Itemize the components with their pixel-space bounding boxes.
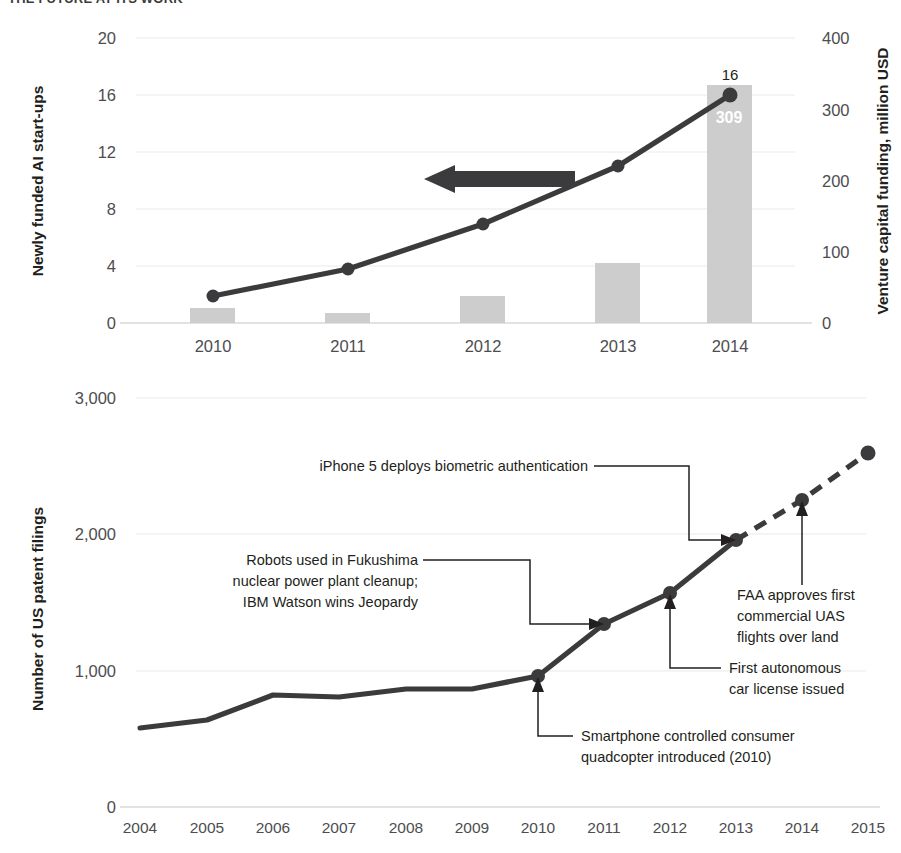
- y-tick-left-2: 8: [107, 200, 116, 218]
- annotation-autonomous-car-line-0: First autonomous: [729, 660, 841, 676]
- annotation-faa: FAA approves first commercial UAS flight…: [737, 587, 855, 645]
- line-marker-2011: [342, 263, 355, 276]
- top-chart-y-axis-right: 400 300 200 100 0 Venture capital fundin…: [822, 29, 891, 332]
- annotation-quadcopter-line-0: Smartphone controlled consumer: [581, 728, 795, 744]
- x-tick-2005: 2005: [190, 819, 224, 836]
- y-tick-left-1: 4: [107, 257, 116, 275]
- top-chart-y-axis-left: 20 16 12 8 4 0 Newly funded AI start-ups: [29, 29, 116, 332]
- left-arrow-icon: [424, 165, 575, 193]
- x-tick-2008: 2008: [389, 819, 423, 836]
- annotation-faa-line-1: commercial UAS: [737, 608, 845, 624]
- leader-quadcopter: [538, 692, 573, 736]
- x-tick-2011: 2011: [330, 337, 365, 355]
- line-marker-2015: [861, 446, 876, 461]
- line-label-2014: 16: [722, 66, 739, 83]
- chart-ai-startups-funding: 20 16 12 8 4 0 Newly funded AI start-ups…: [0, 0, 901, 400]
- y-tick-right-0: 0: [822, 314, 831, 332]
- annotation-iphone5: iPhone 5 deploys biometric authenticatio…: [320, 458, 588, 474]
- x-tick-2004: 2004: [123, 819, 158, 836]
- annotation-quadcopter: Smartphone controlled consumer quadcopte…: [581, 728, 795, 765]
- x-tick-2013: 2013: [719, 819, 753, 836]
- figure-page: THE FUTURE AT ITS WORK 20 16 12 8 4 0 Ne…: [0, 0, 901, 853]
- y-axis-label-left: Newly funded AI start-ups: [29, 86, 46, 277]
- y-axis-label-right: Venture capital funding, million USD: [874, 48, 891, 315]
- bottom-chart-x-axis: 2004 2005 2006 2007 2008 2009 2010 2011 …: [123, 819, 885, 836]
- y-tick-left-3: 12: [98, 143, 116, 161]
- y-tick-left-0: 0: [107, 314, 116, 332]
- y-tick-left-4: 16: [98, 86, 116, 104]
- annotation-fukushima-line-1: nuclear power plant cleanup;: [233, 573, 418, 589]
- y-tick-right-2: 200: [822, 172, 850, 190]
- x-tick-2014: 2014: [712, 337, 749, 355]
- annotation-autonomous-car: First autonomous car license issued: [729, 660, 844, 697]
- x-tick-2009: 2009: [455, 819, 489, 836]
- annotation-faa-line-0: FAA approves first: [737, 587, 855, 603]
- line-marker-2010: [207, 290, 220, 303]
- y-axis-label-bottom-chart: Number of US patent filings: [29, 507, 46, 711]
- y-tick-right-1: 100: [822, 243, 850, 261]
- top-chart-x-axis: 2010 2011 2012 2013 2014: [195, 337, 749, 355]
- x-tick-2012: 2012: [465, 337, 502, 355]
- x-tick-2010: 2010: [521, 819, 556, 836]
- annotation-fukushima: Robots used in Fukushima nuclear power p…: [233, 552, 419, 610]
- bar-2012: [460, 296, 505, 323]
- line-marker-2014: [723, 88, 738, 103]
- line-marker-2013: [612, 160, 625, 173]
- top-chart-bars: 309: [190, 85, 752, 323]
- line-patent-filings-solid: [140, 540, 736, 728]
- bar-2010: [190, 308, 235, 323]
- bar-label-2014: 309: [716, 109, 743, 126]
- bar-2013: [595, 263, 640, 323]
- y-tick-left-5: 20: [98, 29, 116, 47]
- bottom-chart-y-axis: 3,000 2,000 1,000 0 Number of US patent …: [29, 389, 116, 816]
- annotation-fukushima-line-0: Robots used in Fukushima: [246, 552, 419, 568]
- annotation-quadcopter-line-1: quadcopter introduced (2010): [581, 749, 771, 765]
- y-tick-2000: 2,000: [75, 525, 116, 543]
- x-tick-2012: 2012: [653, 819, 687, 836]
- annotation-fukushima-line-2: IBM Watson wins Jeopardy: [243, 594, 419, 610]
- x-tick-2013: 2013: [600, 337, 637, 355]
- y-tick-0: 0: [107, 798, 116, 816]
- leader-fukushima: [423, 560, 590, 624]
- leader-iphone5: [594, 466, 722, 540]
- annotation-autonomous-car-line-1: car license issued: [729, 681, 844, 697]
- x-tick-2014: 2014: [785, 819, 820, 836]
- leader-autonomous-car: [670, 609, 721, 668]
- x-tick-2015: 2015: [851, 819, 885, 836]
- y-tick-1000: 1,000: [75, 662, 116, 680]
- x-tick-2010: 2010: [195, 337, 232, 355]
- x-tick-2011: 2011: [587, 819, 620, 836]
- chart-us-patent-filings: 3,000 2,000 1,000 0 Number of US patent …: [0, 385, 901, 845]
- y-tick-right-3: 300: [822, 101, 850, 119]
- bar-2011: [325, 313, 370, 323]
- y-tick-right-4: 400: [822, 29, 850, 47]
- y-tick-3000: 3,000: [75, 389, 116, 407]
- x-tick-2006: 2006: [256, 819, 290, 836]
- line-marker-2012: [477, 218, 490, 231]
- annotation-faa-line-2: flights over land: [737, 629, 839, 645]
- annotation-iphone5-line-0: iPhone 5 deploys biometric authenticatio…: [320, 458, 588, 474]
- x-tick-2007: 2007: [322, 819, 356, 836]
